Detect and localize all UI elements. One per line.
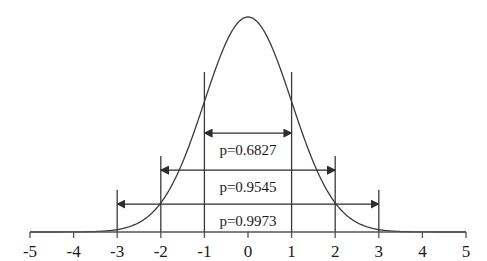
normal-curve-path <box>30 17 466 232</box>
x-axis-tick-label: 2 <box>331 243 340 260</box>
x-axis-tick-label: 0 <box>244 243 253 260</box>
x-axis-tick-label: -5 <box>23 243 37 260</box>
x-axis-tick-label: 5 <box>462 243 471 260</box>
x-axis-tick-label: -4 <box>67 243 81 260</box>
probability-value-label: p=0.6827 <box>216 143 279 158</box>
normal-curve-group <box>30 17 466 232</box>
normal-distribution-figure: -5-4-3-2-1012345 p=0.6827p=0.9545p=0.997… <box>0 0 487 261</box>
x-axis-tick-label: -2 <box>154 243 168 260</box>
x-axis-group <box>30 232 466 238</box>
probability-value-label: p=0.9973 <box>216 214 279 229</box>
x-axis-tick-label: 4 <box>418 243 427 260</box>
x-axis-tick-label: 1 <box>287 243 296 260</box>
x-axis-tick-label: -1 <box>197 243 211 260</box>
x-axis-tick-label: -3 <box>110 243 124 260</box>
x-axis-tick-label: 3 <box>375 243 384 260</box>
probability-value-label: p=0.9545 <box>216 180 279 195</box>
